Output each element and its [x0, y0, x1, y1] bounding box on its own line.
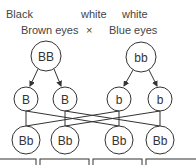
svg-text:Bb: Bb: [58, 134, 73, 148]
offspring-node: Bb: [51, 126, 79, 154]
svg-text:Bb: Bb: [153, 134, 168, 148]
gamete-node: B: [14, 87, 38, 111]
genetics-cross-diagram: Black white white Brown eyes × Blue eyes…: [0, 0, 196, 165]
offspring-node: Bb: [105, 126, 133, 154]
arrow-icon: [30, 69, 38, 86]
parent-node-bb: bb: [126, 42, 156, 72]
cross-lines: [26, 111, 160, 126]
svg-text:b: b: [157, 93, 164, 107]
arrow-icon: [54, 69, 61, 86]
diagram-graphics: BB bb B B b b: [0, 0, 196, 165]
svg-text:BB: BB: [38, 50, 54, 64]
phenotype-boxes: [0, 159, 196, 165]
svg-text:Bb: Bb: [19, 134, 34, 148]
gamete-node: b: [148, 87, 172, 111]
svg-text:b: b: [116, 93, 123, 107]
arrow-icon: [149, 70, 157, 86]
offspring-node: Bb: [146, 126, 174, 154]
gamete-node: b: [107, 87, 131, 111]
svg-text:Bb: Bb: [112, 134, 127, 148]
offspring-node: Bb: [12, 126, 40, 154]
arrow-icon: [124, 70, 133, 86]
svg-text:bb: bb: [134, 51, 148, 65]
svg-text:B: B: [61, 93, 69, 107]
svg-text:B: B: [22, 93, 30, 107]
gamete-node: B: [53, 87, 77, 111]
parent-node-BB: BB: [31, 41, 61, 71]
